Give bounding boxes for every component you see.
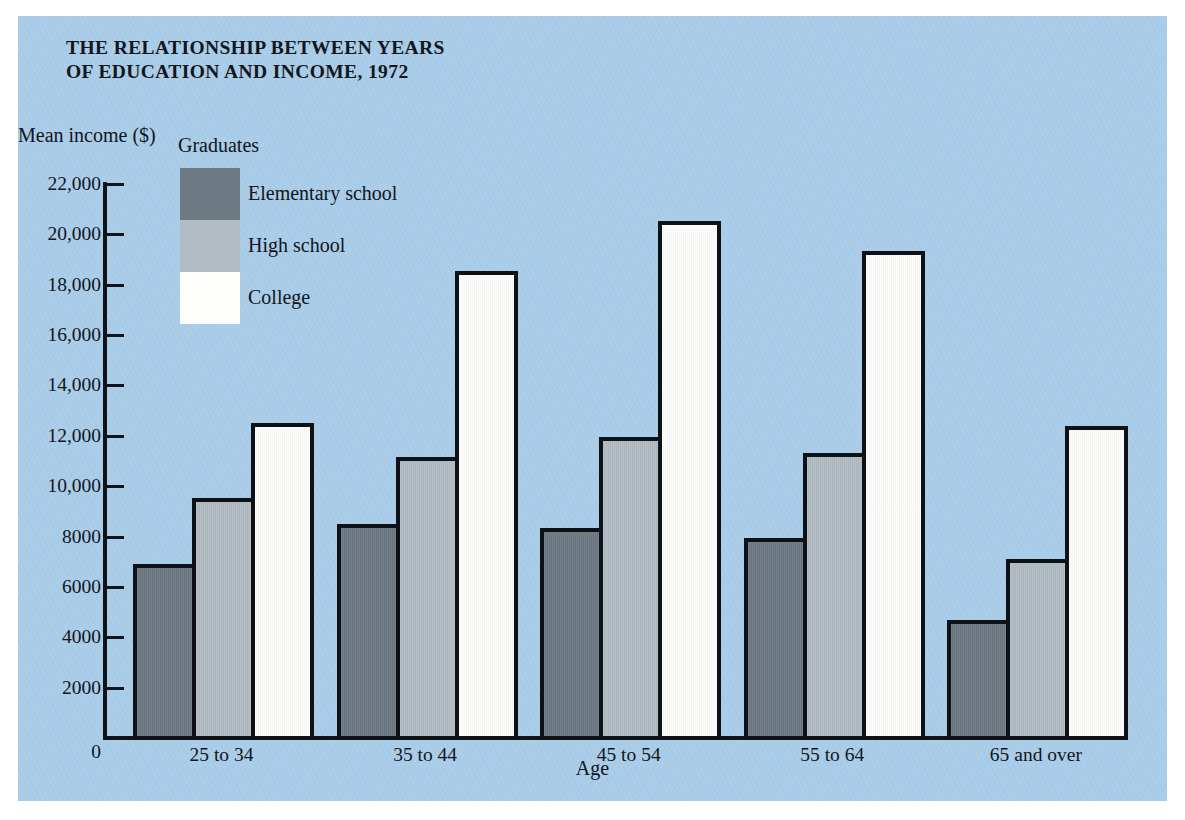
bar-55-to-64-high-school (803, 453, 866, 740)
y-tick-label: 20,000 (19, 223, 101, 245)
legend-label-high: High school (248, 234, 345, 257)
y-tick-label: 16,000 (19, 324, 101, 346)
plot-area: 22,00020,00018,00016,00014,00012,00010,0… (0, 0, 1185, 820)
y-axis-line (103, 182, 107, 740)
category-label: 45 to 54 (510, 744, 747, 766)
y-tick-mark (107, 586, 124, 589)
category-label: 65 and over (917, 744, 1154, 766)
bar-35-to-44-elementary-school (337, 524, 400, 740)
y-tick-label: 4000 (19, 626, 101, 648)
bar-55-to-64-elementary-school (744, 538, 807, 740)
chart-page: THE RELATIONSHIP BETWEEN YEARS OF EDUCAT… (0, 0, 1185, 820)
bar-45-to-54-high-school (599, 437, 662, 740)
y-tick-label: 0 (19, 741, 101, 763)
legend-swatch-college (180, 272, 240, 324)
legend-label-college: College (248, 286, 310, 309)
y-tick-mark (107, 687, 124, 690)
y-tick-mark (107, 284, 124, 287)
legend-label-elementary: Elementary school (248, 182, 397, 205)
y-tick-label: 10,000 (19, 475, 101, 497)
y-tick-mark (107, 183, 124, 186)
y-tick-label: 14,000 (19, 374, 101, 396)
y-tick-label: 6000 (19, 576, 101, 598)
y-tick-label: 22,000 (19, 173, 101, 195)
y-tick-mark (107, 636, 124, 639)
bar-25-to-34-high-school (192, 498, 255, 740)
y-tick-label: 12,000 (19, 425, 101, 447)
category-label: 55 to 64 (714, 744, 951, 766)
bar-55-to-64-college (862, 251, 925, 740)
bar-25-to-34-elementary-school (133, 564, 196, 740)
bar-65-and-over-elementary-school (947, 620, 1010, 740)
bar-65-and-over-college (1065, 426, 1128, 740)
legend-title: Graduates (178, 134, 259, 157)
category-label: 25 to 34 (103, 744, 340, 766)
bar-45-to-54-elementary-school (540, 528, 603, 740)
y-tick-mark (107, 384, 124, 387)
bar-35-to-44-high-school (396, 457, 459, 740)
y-tick-mark (107, 435, 124, 438)
legend-swatch-elementary (180, 168, 240, 220)
y-tick-mark (107, 334, 124, 337)
bar-45-to-54-college (658, 221, 721, 740)
bar-65-and-over-high-school (1006, 559, 1069, 740)
y-tick-mark (107, 485, 124, 488)
y-tick-mark (107, 233, 124, 236)
category-label: 35 to 44 (307, 744, 544, 766)
y-tick-label: 18,000 (19, 274, 101, 296)
bar-35-to-44-college (455, 271, 518, 740)
bar-25-to-34-college (251, 423, 314, 740)
y-tick-mark (107, 536, 124, 539)
legend-swatch-high (180, 220, 240, 272)
y-tick-label: 2000 (19, 677, 101, 699)
y-tick-label: 8000 (19, 526, 101, 548)
